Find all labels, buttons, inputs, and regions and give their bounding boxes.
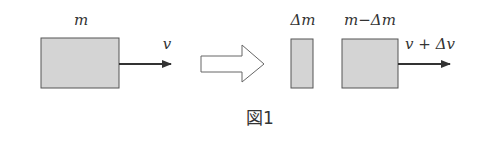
velocity-label-v: v [163,35,172,53]
block-m [41,38,119,88]
mass-label-m: m [74,11,88,29]
figure-caption: 図1 [246,108,274,128]
block-delta-m [291,39,313,88]
mass-label-m-minus-delta-m: m−Δm [344,11,396,29]
before-state: m v [41,11,172,88]
hollow-right-arrow-icon [201,45,264,82]
velocity-label-v-plus-delta-v: v + Δv [405,35,455,53]
momentum-diagram: m v Δm m−Δm v + Δv 図1 [0,0,497,146]
after-state: Δm m−Δm v + Δv [289,11,455,88]
block-m-minus-delta-m [342,39,398,88]
mass-label-delta-m: Δm [289,11,315,29]
